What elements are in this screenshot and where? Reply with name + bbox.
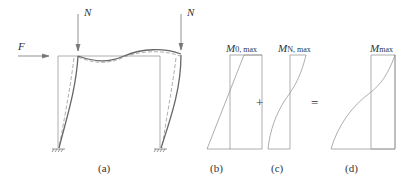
caption-a: (a) — [98, 162, 110, 174]
force-f-label: F — [18, 40, 25, 52]
load-n-right-label: N — [187, 6, 194, 18]
frame-moment-diagram: N N F (a) M0, max (b) + MN, max (c) = Mm… — [0, 0, 411, 190]
moment-label-d: Mmax — [370, 42, 393, 54]
moment-label-c: MN, max — [278, 42, 311, 54]
load-n-left-label: N — [84, 6, 91, 18]
caption-d: (d) — [345, 162, 358, 174]
caption-b: (b) — [210, 162, 223, 174]
equals-operator: = — [311, 95, 318, 111]
moment-label-b: M0, max — [226, 42, 257, 54]
plus-operator: + — [256, 95, 263, 111]
caption-c: (c) — [271, 162, 283, 174]
